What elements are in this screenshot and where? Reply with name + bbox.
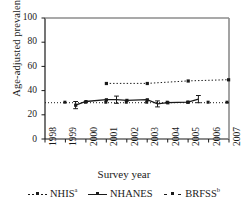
chart-figure: Age-adjusted prevalence 100 80 60 40 20 … bbox=[0, 0, 248, 207]
x-tick-2000: 2000 bbox=[90, 127, 100, 146]
legend-item-brfss: BRFSSb bbox=[163, 186, 220, 199]
legend-label-brfss: BRFSS bbox=[185, 188, 217, 199]
x-tick-2006: 2006 bbox=[213, 127, 223, 146]
legend-marker-dashed-icon bbox=[163, 191, 183, 197]
legend-marker-solid-icon bbox=[88, 191, 108, 197]
x-tick-2003: 2003 bbox=[151, 127, 161, 146]
x-tick-2004: 2004 bbox=[172, 127, 182, 146]
x-tick-1999: 1999 bbox=[69, 127, 79, 146]
legend-sup-brfss: b bbox=[217, 186, 220, 193]
x-tick-2001: 2001 bbox=[110, 127, 120, 146]
series-nhis bbox=[45, 101, 229, 104]
legend-item-nhis: NHISa bbox=[28, 186, 77, 199]
x-tick-1998: 1998 bbox=[49, 127, 59, 146]
legend-label-nhanes: NHANES bbox=[110, 188, 153, 199]
legend-item-nhanes: NHANES bbox=[88, 186, 153, 199]
legend-label-nhis: NHIS bbox=[50, 188, 75, 199]
series-nhanes bbox=[73, 96, 201, 109]
chart-legend: NHISa NHANES BRFSSb bbox=[0, 186, 248, 199]
x-tick-2005: 2005 bbox=[192, 127, 202, 146]
legend-marker-dotted-icon bbox=[28, 191, 48, 197]
axes-lines bbox=[45, 18, 229, 139]
x-axis-label: Survey year bbox=[0, 168, 248, 180]
x-tick-2007: 2007 bbox=[233, 127, 243, 146]
legend-sup-nhis: a bbox=[75, 186, 78, 193]
series-brfss bbox=[105, 78, 230, 85]
x-tick-2002: 2002 bbox=[131, 127, 141, 146]
